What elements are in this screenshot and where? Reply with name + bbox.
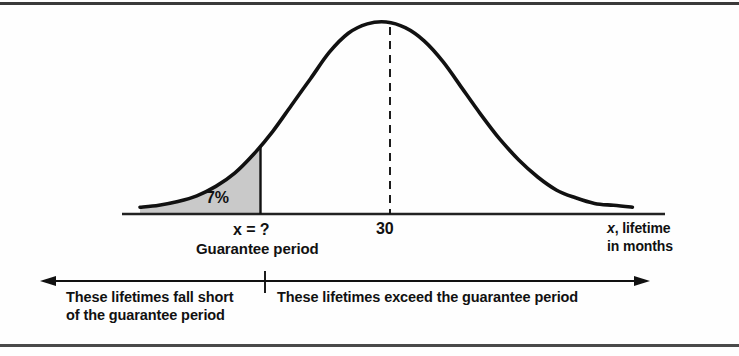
- fall-short-annotation: These lifetimes fall shortof the guarant…: [66, 288, 233, 324]
- exceed-annotation: These lifetimes exceed the guarantee per…: [277, 288, 578, 306]
- shaded-tail-region: [140, 146, 261, 213]
- guarantee-value-label: x = ?: [233, 220, 269, 240]
- x-variable-glyph: x: [233, 221, 242, 238]
- x-axis-title-line1: x, lifetime: [607, 220, 673, 238]
- shaded-area-percent-label: 7%: [206, 188, 229, 208]
- x-axis-title: x, lifetimein months: [607, 220, 673, 255]
- figure-container: 7% x = ? Guarantee period 30 x, lifetime…: [0, 0, 739, 356]
- mean-tick-label: 30: [376, 219, 394, 239]
- annotation-arrow-left-head: [40, 276, 56, 286]
- x-equals-unknown-text: = ?: [242, 221, 270, 238]
- bell-curve: [140, 22, 632, 207]
- fall-short-line1: These lifetimes fall short: [66, 288, 233, 306]
- guarantee-period-label: Guarantee period: [196, 240, 319, 259]
- exceed-line1: These lifetimes exceed the guarantee per…: [277, 288, 578, 306]
- fall-short-line2: of the guarantee period: [66, 306, 233, 324]
- x-axis-title-line2: in months: [607, 238, 673, 256]
- x-axis-variable-glyph: x: [607, 220, 615, 236]
- annotation-arrow-right-head: [634, 276, 650, 286]
- x-axis-title-rest: , lifetime: [615, 220, 671, 236]
